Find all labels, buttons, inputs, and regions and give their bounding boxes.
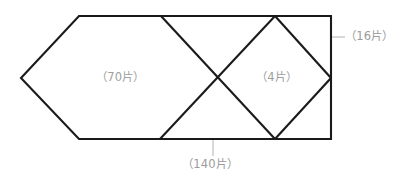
hexagon-region-label: （70片） [96, 72, 145, 84]
diamond-upper-right-edge-path [275, 16, 331, 78]
diamond-region-label: （4片） [256, 72, 297, 84]
right-edge-label: （16片） [345, 31, 394, 43]
diagram-canvas: （70片） （4片） （16片） （140片） [0, 0, 413, 184]
bottom-edge-label: （140片） [182, 159, 238, 171]
diamond-lower-right-edge-path [275, 78, 331, 139]
